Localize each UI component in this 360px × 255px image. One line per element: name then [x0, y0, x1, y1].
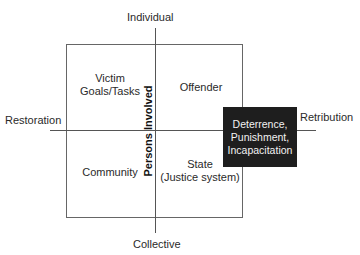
quadrant-top-right-line-1: Offender	[176, 81, 226, 94]
axis-label-left: Restoration	[5, 114, 61, 127]
quadrant-bottom-right-line-2: (Justice system)	[160, 171, 240, 184]
quadrant-bottom-left-line-1: Community	[80, 166, 140, 179]
quadrant-top-left-line-1: Victim	[80, 72, 140, 85]
quadrant-top-right: Offender	[176, 81, 226, 94]
axis-label-right: Retribution	[300, 111, 353, 124]
vertical-axis-title: Persons Involved	[142, 85, 154, 176]
highlight-line-2: Punishment,	[231, 131, 289, 144]
quadrant-bottom-left: Community	[80, 166, 140, 179]
axis-label-top: Individual	[127, 11, 173, 24]
highlight-line-3: Incapacitation	[228, 144, 293, 157]
quadrant-top-left-line-2: Goals/Tasks	[80, 85, 140, 98]
highlight-box: Deterrence, Punishment, Incapacitation	[223, 107, 297, 167]
axis-label-bottom: Collective	[133, 238, 181, 251]
quadrant-top-left: Victim Goals/Tasks	[80, 72, 140, 98]
highlight-line-1: Deterrence,	[233, 118, 288, 131]
